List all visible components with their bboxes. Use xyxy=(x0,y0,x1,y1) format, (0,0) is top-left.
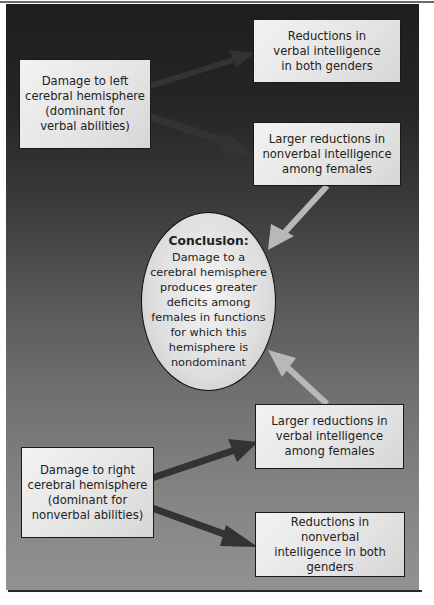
box-line: (dominant for xyxy=(28,493,148,508)
conclusion-line: for which this xyxy=(170,325,246,340)
box-line: verbal intelligence xyxy=(273,44,380,59)
box-line: genders xyxy=(260,560,400,575)
box-line: cerebral hemisphere xyxy=(28,478,148,493)
conclusion-line: produces greater xyxy=(160,280,257,295)
box-line: Damage to left xyxy=(25,74,145,89)
conclusion-line: nondominant xyxy=(171,355,246,370)
nonverbal-reductions-both-genders-box: Reductions in nonverbal intelligence in … xyxy=(255,512,405,577)
verbal-reductions-both-genders-box: Reductions in verbal intelligence in bot… xyxy=(253,19,401,83)
box-line: intelligence in both xyxy=(260,545,400,560)
box-line: among females xyxy=(271,444,387,459)
conclusion-ellipse: Conclusion: Damage to a cerebral hemisph… xyxy=(141,212,276,391)
nonverbal-reductions-females-box: Larger reductions in nonverbal intellige… xyxy=(253,122,401,186)
conclusion-line: cerebral hemisphere xyxy=(150,265,267,280)
box-line: Reductions in nonverbal xyxy=(260,515,400,545)
arrow-right-damage-to-verbal-female-reductions xyxy=(152,439,258,478)
arrow-left-damage-to-verbal-reductions xyxy=(150,50,255,86)
box-line: in both genders xyxy=(273,59,380,74)
conclusion-title: Conclusion: xyxy=(168,234,248,249)
box-line: Damage to right xyxy=(28,463,148,478)
box-line: Reductions in xyxy=(273,29,380,44)
box-line: nonverbal abilities) xyxy=(28,508,148,523)
box-line: nonverbal intelligence xyxy=(262,147,391,162)
arrow-top-finding-to-conclusion xyxy=(268,186,327,250)
box-line: Larger reductions in xyxy=(271,414,387,429)
conclusion-line: females in functions xyxy=(151,310,265,325)
conclusion-line: hemisphere is xyxy=(169,340,248,355)
verbal-reductions-females-box: Larger reductions in verbal intelligence… xyxy=(255,404,404,469)
arrow-bottom-finding-to-conclusion xyxy=(268,350,327,404)
right-hemisphere-damage-box: Damage to right cerebral hemisphere (dom… xyxy=(21,447,154,538)
box-line: verbal abilities) xyxy=(25,119,145,134)
box-line: (dominant for xyxy=(25,104,145,119)
box-line: verbal intelligence xyxy=(271,429,387,444)
conclusion-line: Damage to a xyxy=(172,250,245,265)
conclusion-line: deficits among xyxy=(167,295,251,310)
arrow-right-damage-to-nonverbal-reductions xyxy=(152,508,258,547)
box-line: Larger reductions in xyxy=(262,132,391,147)
box-line: among females xyxy=(262,162,391,177)
left-hemisphere-damage-box: Damage to left cerebral hemisphere (domi… xyxy=(19,59,151,149)
arrow-left-damage-to-nonverbal-female-reductions xyxy=(150,117,258,157)
box-line: cerebral hemisphere xyxy=(25,89,145,104)
